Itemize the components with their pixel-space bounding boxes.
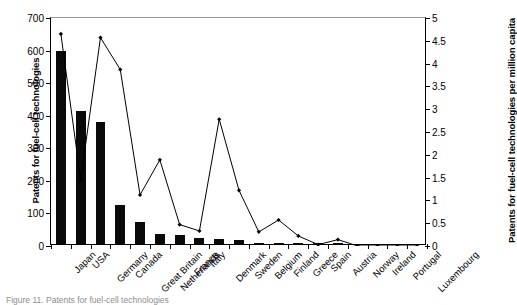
line-series — [51, 18, 425, 244]
y-axis-right-tick-label: 3 — [432, 104, 438, 115]
y-axis-right-title: Patents for fuel-cell technologies per m… — [506, 16, 517, 246]
y-axis-left-tick-label: 100 — [27, 208, 44, 219]
line-marker — [395, 244, 399, 246]
y-axis-left-tick-label: 300 — [27, 143, 44, 154]
line-marker — [217, 117, 221, 121]
line-marker — [178, 222, 182, 226]
line-marker — [237, 188, 241, 192]
y-axis-right-tick-label: 4 — [432, 58, 438, 69]
line-series-svg — [51, 18, 427, 246]
y-axis-right-tick-label: 1 — [432, 195, 438, 206]
line-marker — [336, 238, 340, 242]
line-marker — [257, 230, 261, 234]
y-axis-left-tick-label: 200 — [27, 175, 44, 186]
line-path — [61, 34, 417, 246]
y-axis-left-tick-label: 600 — [27, 45, 44, 56]
line-marker — [356, 244, 360, 246]
x-axis-tick — [427, 244, 428, 249]
y-axis-left-tick-label: 500 — [27, 78, 44, 89]
y-axis-right-tick-label: 2 — [432, 149, 438, 160]
line-marker — [79, 178, 83, 182]
line-marker — [59, 32, 63, 36]
y-axis-right-tick-label: 0.5 — [432, 218, 446, 229]
line-marker — [138, 193, 142, 197]
y-axis-right-tick-label: 5 — [432, 13, 438, 24]
plot-area: 0100200300400500600700 00.511.522.533.54… — [50, 17, 426, 245]
y-axis-left-tick-label: 700 — [27, 13, 44, 24]
line-marker — [316, 243, 320, 246]
figure-caption: Figure 11. Patents for fuel-cell technol… — [6, 295, 169, 305]
line-marker — [158, 158, 162, 162]
line-marker — [375, 244, 379, 246]
y-axis-right-tick-label: 2.5 — [432, 127, 446, 138]
y-axis-right-tick-label: 4.5 — [432, 35, 446, 46]
y-axis-right-tick-label: 1.5 — [432, 172, 446, 183]
y-axis-left-tick-label: 400 — [27, 110, 44, 121]
line-marker — [415, 244, 419, 246]
y-axis-right-tick-label: 3.5 — [432, 81, 446, 92]
y-axis-left-title: Patents for fuel-cell technologies — [30, 36, 41, 226]
y-axis-left-tick-label: 0 — [38, 241, 44, 252]
line-marker — [197, 229, 201, 233]
